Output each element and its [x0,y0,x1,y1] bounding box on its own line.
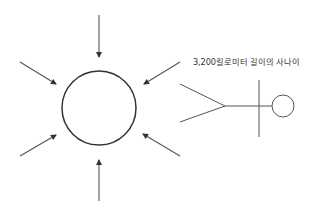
figure-leg-upper [180,84,225,106]
diagram-canvas [0,0,315,219]
arrows-group [20,15,180,201]
central-circle-icon [62,71,136,145]
arrow-lower-left-icon [20,135,56,156]
figure-head [272,95,294,117]
figure-label: 3,200킬로미터 길이의 사나이 [193,55,300,67]
arrow-upper-left-icon [20,62,56,84]
stick-figure-icon [180,80,294,137]
arrow-upper-right-icon [144,62,180,84]
figure-leg-lower [180,106,225,122]
compression-diagram: 3,200킬로미터 길이의 사나이 [0,0,315,219]
arrow-lower-right-icon [143,134,180,156]
